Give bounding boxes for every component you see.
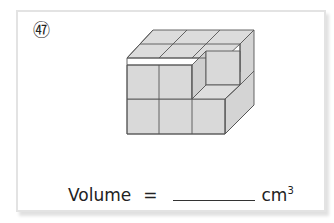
- unit-label: cm3: [261, 185, 293, 205]
- equals-sign: =: [143, 185, 157, 205]
- answer-blank[interactable]: [173, 184, 255, 201]
- unit-base: cm: [261, 185, 287, 205]
- problem-card: ㊼: [16, 10, 326, 212]
- volume-label: Volume: [68, 185, 131, 205]
- cube-figure-icon: [107, 21, 267, 141]
- problem-number: ㊼: [33, 22, 50, 39]
- volume-answer-line: Volume = cm3: [68, 184, 294, 205]
- unit-exponent: 3: [287, 185, 293, 196]
